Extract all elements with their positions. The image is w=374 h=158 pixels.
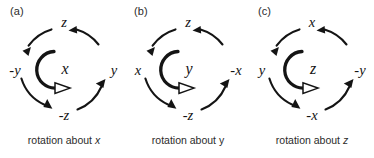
- panel-a-caption-axis: x: [95, 134, 100, 146]
- panel-a-caption-prefix: rotation about: [28, 134, 95, 146]
- panel-b-diagram: y z -x -z x: [130, 16, 246, 124]
- panel-c-caption-prefix: rotation about: [276, 134, 343, 146]
- panel-a-caption: rotation about x: [2, 134, 126, 146]
- panel-a-label-right: y: [109, 62, 118, 78]
- panel-a-label-top: z: [60, 16, 67, 30]
- panel-a: (a) x z: [2, 0, 126, 158]
- panel-b-center-label: y: [183, 60, 193, 78]
- panel-b-caption: rotation about y: [126, 134, 250, 146]
- panel-c-caption: rotation about z: [250, 134, 374, 146]
- panel-c-caption-axis: z: [343, 134, 348, 146]
- panel-c-label-left: y: [257, 62, 266, 78]
- panel-b-label-left: x: [134, 62, 142, 78]
- panel-a-label-bottom: -z: [59, 107, 70, 123]
- panel-b-caption-prefix: rotation about: [152, 134, 219, 146]
- rotation-conventions-figure: (a) x z: [0, 0, 374, 158]
- panel-b-caption-axis: y: [219, 134, 224, 146]
- panel-c-label-top: x: [308, 16, 316, 30]
- panel-b-label-top: z: [184, 16, 191, 30]
- panel-b-label-bottom: -z: [183, 107, 194, 123]
- panel-a-center-label: x: [60, 60, 68, 77]
- panel-a-label-left: -y: [9, 62, 21, 78]
- panel-b: (b) y z -x -z x rotation ab: [126, 0, 250, 158]
- panel-c-center-label: z: [309, 60, 317, 77]
- panel-b-label-right: -x: [230, 62, 242, 78]
- panel-c-diagram: z x -y -x y: [254, 16, 370, 124]
- panel-c: (c) z x -y -x y rotation ab: [250, 0, 374, 158]
- panel-c-label-bottom: -x: [306, 107, 318, 123]
- panel-a-diagram: x z y -z -y: [6, 16, 122, 124]
- panel-c-label-right: -y: [354, 62, 366, 78]
